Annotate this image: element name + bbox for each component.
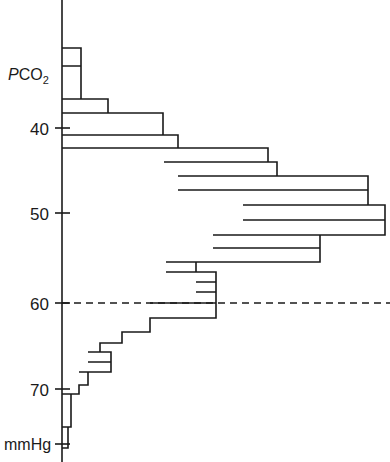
pco2-distribution-chart: 40 50 60 70 PCO2 mmHg <box>0 0 390 462</box>
units-label: mmHg <box>4 436 51 453</box>
y-tick-label-70: 70 <box>30 381 49 400</box>
y-axis-title-subscript: 2 <box>43 74 49 86</box>
y-axis-title-p: P <box>8 66 19 83</box>
y-tick-label-60: 60 <box>30 295 49 314</box>
y-axis-title-co: CO <box>19 66 43 83</box>
y-tick-label-50: 50 <box>30 205 49 224</box>
chart-background <box>0 0 390 462</box>
y-tick-label-40: 40 <box>30 120 49 139</box>
